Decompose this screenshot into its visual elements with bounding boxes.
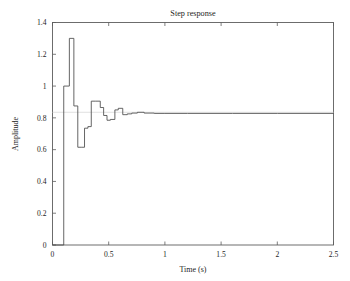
y-tick-label: 0.4 [37,177,47,186]
y-tick-label: 1.2 [37,50,47,59]
step-response-figure: Step response Amplitude Time (s) 00.511.… [0,0,350,281]
y-tick-label: 0.2 [37,209,47,218]
y-tick-label: 1 [43,82,47,91]
x-tick-label: 1 [163,250,167,259]
chart-title: Step response [170,9,216,18]
plot-frame [53,23,334,246]
x-tick-label: 0.5 [104,250,114,259]
x-tick-label: 1.5 [216,250,226,259]
x-axis-ticks: 00.511.522.5 [51,23,339,260]
y-tick-label: 1.4 [37,18,47,27]
x-tick-label: 0 [51,250,55,259]
x-tick-label: 2.5 [329,250,339,259]
y-axis-ticks: 00.20.40.60.811.21.4 [37,18,56,250]
y-tick-label: 0.8 [37,114,47,123]
y-tick-label: 0 [43,241,47,250]
y-axis-label: Amplitude [11,116,20,151]
step-response-curve [53,38,334,245]
x-tick-label: 2 [275,250,279,259]
y-tick-label: 0.6 [37,145,47,154]
chart-canvas: Step response Amplitude Time (s) 00.511.… [0,0,350,281]
x-axis-label: Time (s) [179,265,206,274]
